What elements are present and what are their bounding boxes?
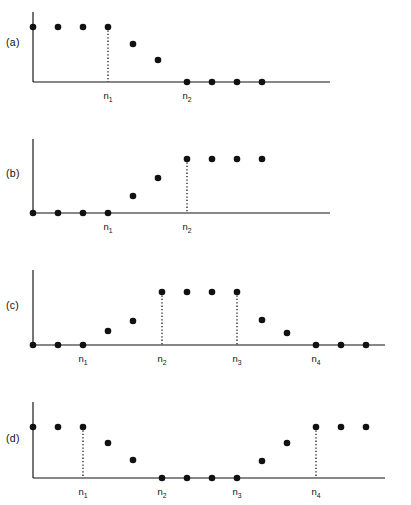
data-point-c-9: [259, 317, 266, 324]
tick-subscript: 3: [238, 359, 242, 366]
data-point-c-0: [30, 342, 37, 349]
data-point-c-8: [234, 289, 241, 296]
tick-label-d-3: n3: [232, 486, 241, 499]
data-point-b-0: [30, 210, 37, 217]
data-point-d-6: [184, 475, 191, 482]
tick-label-a-1: n1: [103, 90, 112, 103]
data-point-b-5: [155, 175, 162, 182]
data-point-c-13: [363, 342, 370, 349]
data-point-b-3: [105, 210, 112, 217]
tick-subscript: 2: [163, 492, 167, 499]
tick-subscript: 4: [317, 492, 321, 499]
data-point-c-6: [184, 289, 191, 296]
tick-subscript: 2: [188, 227, 192, 234]
tick-subscript: 1: [84, 359, 88, 366]
data-point-c-1: [55, 342, 62, 349]
data-point-d-5: [159, 475, 166, 482]
data-point-a-7: [209, 79, 216, 86]
data-point-b-8: [234, 156, 241, 163]
signal-plots-figure: n1n2n1n2n1n2n3n4n1n2n3n4 (a)(b)(c)(d): [0, 0, 411, 505]
data-point-c-12: [338, 342, 345, 349]
panel-caption-c: (c): [6, 299, 19, 311]
tick-label-b-2: n2: [182, 221, 191, 234]
data-point-a-5: [155, 57, 162, 64]
tick-label-c-2: n2: [157, 353, 166, 366]
panel-c: n1n2n3n4: [30, 270, 385, 366]
tick-subscript: 2: [188, 96, 192, 103]
data-point-d-8: [234, 475, 241, 482]
data-point-c-11: [313, 342, 320, 349]
data-point-d-10: [284, 440, 291, 447]
tick-label-c-3: n3: [232, 353, 241, 366]
data-point-d-3: [105, 440, 112, 447]
data-point-a-3: [105, 24, 112, 31]
tick-label-d-1: n1: [78, 486, 87, 499]
data-point-d-11: [313, 424, 320, 431]
data-point-d-4: [130, 457, 137, 464]
tick-subscript: 1: [109, 96, 113, 103]
data-point-c-10: [284, 330, 291, 337]
data-point-a-2: [80, 24, 87, 31]
data-point-d-7: [209, 475, 216, 482]
tick-label-b-1: n1: [103, 221, 112, 234]
data-point-c-4: [130, 318, 137, 325]
data-point-b-7: [209, 156, 216, 163]
data-point-d-0: [30, 424, 37, 431]
panels-group: n1n2n1n2n1n2n3n4n1n2n3n4: [30, 12, 385, 499]
panel-b: n1n2: [30, 139, 330, 234]
tick-subscript: 2: [163, 359, 167, 366]
panel-labels-group: (a)(b)(c)(d): [6, 36, 20, 444]
data-point-b-6: [184, 156, 191, 163]
data-point-b-1: [55, 210, 62, 217]
figure-container: n1n2n1n2n1n2n3n4n1n2n3n4 (a)(b)(c)(d): [0, 0, 411, 505]
data-point-d-12: [338, 424, 345, 431]
tick-subscript: 4: [317, 359, 321, 366]
data-point-a-0: [30, 24, 37, 31]
data-point-d-1: [55, 424, 62, 431]
data-point-d-13: [363, 424, 370, 431]
tick-label-d-4: n4: [311, 486, 320, 499]
data-point-a-8: [234, 79, 241, 86]
panel-a: n1n2: [30, 12, 330, 103]
panel-d: n1n2n3n4: [30, 402, 385, 499]
tick-label-a-2: n2: [182, 90, 191, 103]
data-point-a-4: [130, 41, 137, 48]
tick-subscript: 3: [238, 492, 242, 499]
data-point-b-9: [259, 156, 266, 163]
data-point-c-5: [159, 289, 166, 296]
tick-label-d-2: n2: [157, 486, 166, 499]
data-point-a-1: [55, 24, 62, 31]
data-point-c-3: [105, 328, 112, 335]
panel-caption-b: (b): [6, 167, 20, 179]
tick-label-c-4: n4: [311, 353, 320, 366]
tick-subscript: 1: [109, 227, 113, 234]
data-point-c-7: [209, 289, 216, 296]
data-point-c-2: [80, 342, 87, 349]
panel-caption-a: (a): [6, 36, 20, 48]
data-point-d-2: [80, 424, 87, 431]
data-point-b-4: [130, 193, 137, 200]
data-point-a-6: [184, 79, 191, 86]
panel-caption-d: (d): [6, 432, 20, 444]
tick-label-c-1: n1: [78, 353, 87, 366]
tick-subscript: 1: [84, 492, 88, 499]
data-point-a-9: [259, 79, 266, 86]
data-point-d-9: [259, 458, 266, 465]
data-point-b-2: [80, 210, 87, 217]
